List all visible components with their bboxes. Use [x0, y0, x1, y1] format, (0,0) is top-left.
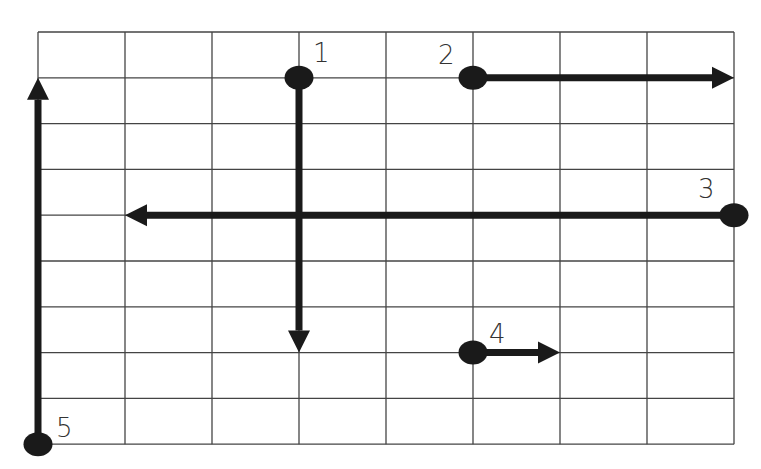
arrow-label-5: 5: [56, 413, 73, 443]
vector-arrow-1: [285, 66, 314, 353]
arrowhead-icon: [27, 78, 49, 100]
arrow-label-4: 4: [489, 319, 506, 349]
arrow-labels: 1 2 3 4 5: [56, 38, 715, 443]
start-point-dot: [459, 341, 488, 365]
grid: [38, 32, 734, 444]
vector-arrow-grid-diagram: 1 2 3 4 5: [0, 0, 761, 469]
vector-arrow-3: [125, 203, 749, 227]
arrowhead-icon: [125, 204, 147, 226]
start-point-dot: [459, 66, 488, 90]
start-point-dot: [720, 203, 749, 227]
start-point-dot: [285, 66, 314, 90]
vector-arrow-4: [459, 341, 561, 365]
arrowhead-icon: [712, 67, 734, 89]
arrow-label-3: 3: [698, 174, 715, 204]
vector-arrow-5: [24, 78, 53, 456]
start-point-dot: [24, 432, 53, 456]
arrowhead-icon: [538, 342, 560, 364]
arrow-label-1: 1: [313, 38, 330, 68]
diagram-canvas: 1 2 3 4 5: [0, 0, 761, 469]
arrow-label-2: 2: [438, 40, 455, 70]
vector-arrow-2: [459, 66, 735, 90]
arrowhead-icon: [288, 331, 310, 353]
